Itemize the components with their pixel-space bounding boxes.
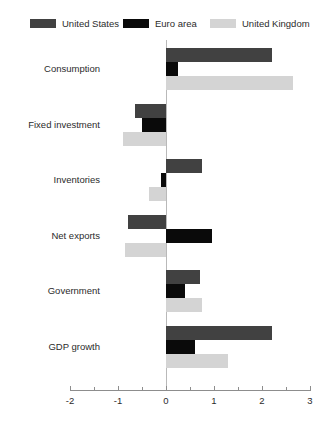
- x-tick-minor-2: [190, 387, 191, 390]
- category-label: Inventories: [0, 174, 100, 185]
- bar-0-1: [166, 62, 178, 76]
- x-tick-major-5: [310, 386, 311, 391]
- bar-5-2: [166, 354, 228, 368]
- category-label: Fixed investment: [0, 119, 100, 130]
- legend-swatch-icon: [123, 19, 149, 28]
- bar-1-0: [135, 104, 166, 118]
- x-tick-major-2: [166, 386, 167, 391]
- bar-4-0: [166, 270, 200, 284]
- x-tick-major-4: [262, 386, 263, 391]
- bar-3-2: [125, 243, 166, 257]
- bar-group-5: GDP growth: [0, 326, 325, 368]
- legend-label: United States: [62, 16, 119, 32]
- bar-3-1: [166, 229, 212, 243]
- legend-item-1[interactable]: Euro area: [123, 14, 197, 30]
- x-tick-label-2: 0: [154, 395, 178, 406]
- bar-group-4: Government: [0, 270, 325, 312]
- x-tick-label-0: -2: [58, 395, 82, 406]
- x-tick-label-3: 1: [202, 395, 226, 406]
- bar-group-0: Consumption: [0, 48, 325, 90]
- category-label: Consumption: [0, 63, 100, 74]
- bar-5-0: [166, 326, 272, 340]
- bar-2-0: [166, 159, 202, 173]
- x-axis-line: [70, 390, 310, 391]
- legend-swatch-icon: [30, 19, 56, 28]
- x-tick-minor-1: [142, 387, 143, 390]
- bar-4-2: [166, 298, 202, 312]
- x-tick-major-0: [70, 386, 71, 391]
- x-tick-minor-4: [286, 387, 287, 390]
- chart-legend: United StatesEuro areaUnited Kingdom: [0, 14, 325, 30]
- x-tick-label-1: -1: [106, 395, 130, 406]
- bar-0-2: [166, 76, 293, 90]
- bar-group-3: Net exports: [0, 215, 325, 257]
- bar-1-2: [123, 132, 166, 146]
- x-tick-label-4: 2: [250, 395, 274, 406]
- bar-0-0: [166, 48, 272, 62]
- bar-1-1: [142, 118, 166, 132]
- legend-item-0[interactable]: United States: [30, 14, 119, 30]
- legend-swatch-icon: [210, 19, 236, 28]
- legend-item-2[interactable]: United Kingdom: [210, 14, 310, 30]
- x-tick-label-5: 3: [298, 395, 322, 406]
- x-tick-minor-0: [94, 387, 95, 390]
- bar-group-1: Fixed investment: [0, 104, 325, 146]
- bar-group-2: Inventories: [0, 159, 325, 201]
- x-axis: -2-10123: [0, 390, 325, 425]
- category-label: Net exports: [0, 230, 100, 241]
- legend-label: Euro area: [155, 16, 197, 32]
- bar-3-0: [128, 215, 166, 229]
- legend-label: United Kingdom: [242, 16, 310, 32]
- x-tick-minor-3: [238, 387, 239, 390]
- x-tick-major-3: [214, 386, 215, 391]
- x-tick-major-1: [118, 386, 119, 391]
- bar-2-2: [149, 187, 166, 201]
- category-label: Government: [0, 285, 100, 296]
- bar-2-1: [161, 173, 166, 187]
- bar-5-1: [166, 340, 195, 354]
- plot-area: ConsumptionFixed investmentInventoriesNe…: [0, 40, 325, 390]
- bar-4-1: [166, 284, 185, 298]
- category-label: GDP growth: [0, 341, 100, 352]
